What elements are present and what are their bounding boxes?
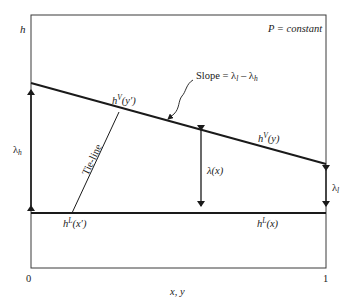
lambda-h-label: λh: [13, 144, 22, 157]
x-axis-label: x, y: [169, 286, 185, 297]
y-axis-label: h: [20, 23, 26, 35]
enthalpy-composition-diagram: h P = constant Slope = λl – λh hV(y′) hV…: [0, 0, 352, 301]
plot-frame: [31, 15, 326, 268]
liquid-point-label: hL(x′): [63, 216, 87, 230]
lambda-x-text: λ(x): [206, 165, 224, 177]
vapor-point-arg: (y′): [122, 95, 136, 107]
x-tick-zero: 0: [26, 273, 31, 284]
slope-minus: – λ: [238, 70, 255, 81]
lambda-x-label: λ(x): [206, 165, 224, 177]
slope-label: Slope = λl – λh: [196, 70, 258, 83]
tie-line-label: Tie-line: [80, 142, 104, 177]
lambda-h-sub: h: [18, 148, 22, 157]
lambda-l-sub: l: [337, 186, 339, 195]
vapor-point-label: hV(y′): [112, 93, 136, 107]
liquid-line-arg: (x): [266, 218, 278, 230]
slope-label-main: Slope = λ: [196, 70, 237, 81]
condition-label-text: P = constant: [267, 23, 323, 34]
liquid-line-label: hL(x): [257, 216, 279, 230]
condition-label: P = constant: [267, 23, 323, 34]
vapor-enthalpy-line: [31, 83, 326, 164]
lambda-l-label: λl: [332, 182, 339, 195]
slope-callout-arrow: [168, 80, 193, 119]
x-tick-one: 1: [323, 273, 328, 284]
vapor-line-arg: (y): [268, 133, 280, 145]
slope-sub-h: h: [254, 74, 258, 83]
vapor-line-label: hV(y): [258, 131, 280, 145]
liquid-point-arg: (x′): [72, 218, 86, 230]
